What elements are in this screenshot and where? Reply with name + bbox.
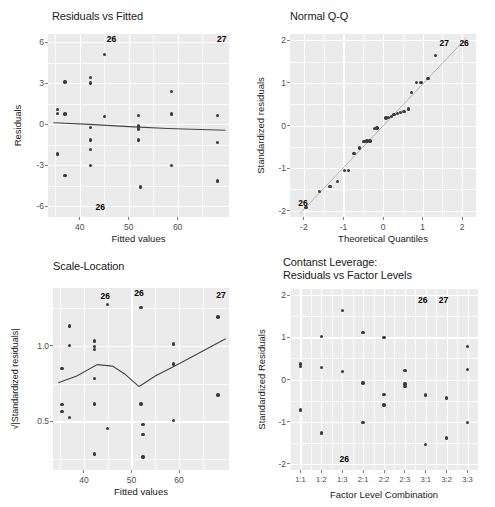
y-axis-title-normal-qq: Standardized residuals: [255, 34, 266, 217]
data-point: [299, 408, 302, 411]
data-point: [299, 365, 302, 368]
data-point: [368, 139, 371, 142]
panel-residuals-vs-fitted: Residuals vs Fitted -6-3036 405060 Fitte…: [0, 0, 247, 252]
data-point: [56, 152, 59, 155]
y-tick-label: -1: [268, 417, 286, 427]
x-tick-label: 3:2: [441, 475, 452, 484]
data-point: [403, 385, 406, 388]
y-tick-mark: [287, 337, 289, 338]
outlier-label: 27: [217, 34, 226, 44]
grid-line-major-vertical: [384, 289, 385, 470]
data-point: [375, 126, 378, 129]
panel-title-residuals-vs-fitted: Residuals vs Fitted: [52, 10, 242, 23]
y-tick-label: 0.5: [31, 416, 49, 426]
data-point: [141, 423, 144, 426]
y-tick-mark: [287, 463, 289, 464]
grid-line-major-vertical: [363, 289, 364, 470]
data-point: [93, 377, 96, 380]
x-tick-mark: [363, 470, 364, 472]
panel-scale-location: Scale-Location 0.51.0 405060 Fitted valu…: [0, 252, 247, 507]
plot-area-normal-qq: [290, 34, 476, 217]
data-point: [466, 421, 469, 424]
data-point: [403, 369, 406, 372]
x-tick-mark: [446, 470, 447, 472]
grid-line-major-vertical: [405, 289, 406, 470]
grid-line-minor-vertical: [415, 289, 416, 470]
data-point: [172, 362, 175, 365]
y-tick-mark: [287, 40, 289, 41]
x-tick-label: 1:2: [316, 475, 327, 484]
data-point: [89, 138, 92, 141]
y-axis-title-scale-location: √|Standardized residuals|: [10, 288, 20, 470]
x-tick-mark: [177, 217, 178, 219]
x-tick-label: 3:3: [462, 475, 473, 484]
grid-line-minor-vertical: [311, 289, 312, 470]
x-tick-label: 50: [127, 475, 136, 485]
x-tick-label: 1:1: [295, 475, 306, 484]
grid-line-minor-vertical: [394, 289, 395, 470]
x-tick-mark: [462, 217, 463, 219]
y-tick-label: -1: [268, 163, 286, 173]
x-tick-mark: [383, 217, 384, 219]
y-tick-mark: [50, 421, 52, 422]
data-point: [382, 393, 385, 396]
x-tick-mark: [404, 470, 405, 472]
x-tick-mark: [303, 217, 304, 219]
data-point: [141, 455, 144, 458]
data-point: [320, 366, 323, 369]
x-tick-label: -1: [340, 222, 348, 232]
y-tick-label: 6: [26, 37, 44, 47]
x-tick-label: 1: [420, 222, 425, 232]
y-tick-label: 2: [268, 290, 286, 300]
x-tick-label: 2:1: [358, 475, 369, 484]
data-point: [352, 152, 355, 155]
data-point: [56, 112, 59, 115]
y-tick-label: 1: [268, 332, 286, 342]
outlier-label: 26: [340, 454, 349, 464]
data-point: [63, 174, 66, 177]
x-tick-label: 3:1: [420, 475, 431, 484]
y-tick-mark: [45, 42, 47, 43]
y-tick-label: -2: [268, 206, 286, 216]
y-tick-label: 0: [268, 121, 286, 131]
outlier-label: 26: [298, 198, 307, 208]
plot-area-residuals-vs-fitted: [48, 34, 229, 217]
panel-title-normal-qq: Normal Q-Q: [290, 10, 480, 23]
outlier-label: 26: [107, 34, 116, 44]
data-point: [60, 410, 63, 413]
x-tick-mark: [321, 470, 322, 472]
data-point: [139, 402, 142, 405]
x-tick-mark: [83, 470, 84, 472]
y-tick-label: 1.0: [31, 341, 49, 351]
data-point: [216, 315, 219, 318]
x-tick-label: 40: [75, 222, 84, 232]
data-point: [361, 331, 364, 334]
grid-line-minor-vertical: [436, 289, 437, 470]
panel-constant-leverage: Contanst Leverage: Residuals vs Factor L…: [247, 252, 495, 507]
y-tick-label: -6: [26, 201, 44, 211]
x-tick-label: 0: [381, 222, 386, 232]
data-point: [402, 110, 405, 113]
data-point: [358, 146, 361, 149]
data-point: [93, 452, 96, 455]
outlier-label: 26: [418, 295, 427, 305]
y-tick-label: 3: [26, 78, 44, 88]
x-tick-mark: [128, 217, 129, 219]
y-tick-mark: [45, 83, 47, 84]
data-point: [63, 80, 66, 83]
y-tick-mark: [287, 82, 289, 83]
data-point: [68, 324, 71, 327]
grid-line-major-vertical: [300, 289, 301, 470]
data-point: [216, 393, 219, 396]
x-axis-title-residuals-vs-fitted: Fitted values: [48, 233, 229, 244]
data-point: [93, 339, 96, 342]
data-point: [361, 421, 364, 424]
y-tick-mark: [287, 295, 289, 296]
y-tick-mark: [50, 345, 52, 346]
y-axis-title-constant-leverage: Standardized Residuals: [256, 289, 267, 470]
x-tick-mark: [343, 217, 344, 219]
y-tick-label: 0: [26, 119, 44, 129]
data-point: [341, 370, 344, 373]
data-point: [419, 81, 422, 84]
y-axis-title-residuals-vs-fitted: Residuals: [12, 34, 23, 217]
